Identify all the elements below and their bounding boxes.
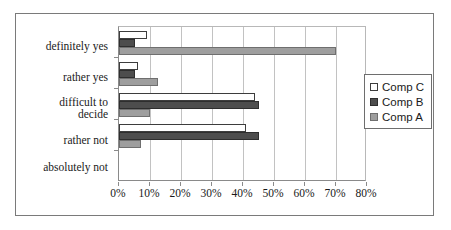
white-square-icon xyxy=(370,83,378,91)
bar-comp-c-rather-yes xyxy=(119,62,138,70)
dark-gray-square-icon xyxy=(370,98,378,106)
bar-group-difficult-to-decide xyxy=(119,89,365,120)
y-axis-label-rather-yes: rather yes xyxy=(16,71,112,83)
chart-legend: Comp C Comp B Comp A xyxy=(364,74,432,129)
bar-comp-a-rather-not xyxy=(119,140,141,148)
y-axis-label-difficult-to-decide-text: difficult todecide xyxy=(59,96,108,120)
x-axis-tick xyxy=(335,182,336,186)
y-axis-label-absolutely-not: absolutely not xyxy=(16,161,112,173)
x-axis-tick xyxy=(366,182,367,186)
x-axis-tick xyxy=(149,182,150,186)
bar-comp-a-rather-yes xyxy=(119,78,158,86)
y-axis-label-definitely-yes: definitely yes xyxy=(16,40,112,52)
medium-gray-square-icon xyxy=(370,113,378,121)
bar-comp-b-definitely-yes xyxy=(119,39,135,47)
y-axis-label-rather-not: rather not xyxy=(16,134,112,146)
bar-comp-c-rather-not xyxy=(119,124,246,132)
bar-comp-b-difficult-to-decide xyxy=(119,101,259,109)
x-axis-tick xyxy=(180,182,181,186)
legend-item-comp-b: Comp B xyxy=(370,94,428,109)
x-axis-tick xyxy=(242,182,243,186)
legend-label-comp-b: Comp B xyxy=(382,96,424,108)
x-axis-label-80: 80% xyxy=(346,187,386,199)
bar-comp-c-definitely-yes xyxy=(119,31,147,39)
bar-group-rather-yes xyxy=(119,58,365,89)
x-axis-tick xyxy=(118,182,119,186)
bar-comp-c-difficult-to-decide xyxy=(119,93,255,101)
chart-figure: definitely yes rather yes difficult tode… xyxy=(15,13,434,216)
bar-comp-a-difficult-to-decide xyxy=(119,109,150,117)
y-axis-label-difficult-to-decide: difficult todecide xyxy=(16,96,112,121)
x-axis-tick xyxy=(304,182,305,186)
bar-group-definitely-yes xyxy=(119,27,365,58)
bar-group-absolutely-not xyxy=(119,151,365,182)
plot-area xyxy=(118,26,366,181)
legend-label-comp-a: Comp A xyxy=(382,111,423,123)
legend-item-comp-a: Comp A xyxy=(370,109,428,124)
bar-group-rather-not xyxy=(119,120,365,151)
bar-comp-b-rather-yes xyxy=(119,70,135,78)
bar-comp-b-rather-not xyxy=(119,132,259,140)
legend-item-comp-c: Comp C xyxy=(370,79,428,94)
x-axis-tick xyxy=(273,182,274,186)
legend-label-comp-c: Comp C xyxy=(382,81,424,93)
x-axis-tick xyxy=(211,182,212,186)
bar-comp-a-definitely-yes xyxy=(119,47,336,55)
